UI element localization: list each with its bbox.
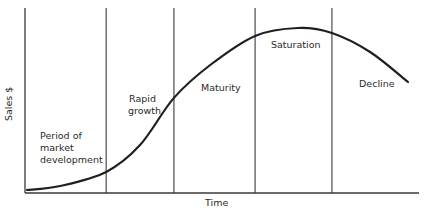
phase-label-maturity: Maturity bbox=[201, 82, 241, 93]
phase-label-line: market bbox=[40, 142, 74, 153]
phase-label-market-development: Period of market development bbox=[40, 130, 103, 165]
phase-label-line: Rapid bbox=[129, 93, 156, 104]
x-axis-label: Time bbox=[204, 197, 228, 208]
sales-curve bbox=[27, 28, 408, 190]
phase-label-decline: Decline bbox=[359, 78, 395, 89]
phase-label-rapid-growth: Rapid growth bbox=[128, 93, 161, 116]
phase-label-line: growth bbox=[128, 105, 161, 116]
y-axis-label: Sales $ bbox=[3, 87, 14, 121]
product-life-cycle-chart: Period of market development Rapid growt… bbox=[0, 0, 424, 208]
phase-label-saturation: Saturation bbox=[271, 39, 321, 50]
phase-label-line: Period of bbox=[40, 130, 82, 141]
phase-label-line: development bbox=[40, 154, 103, 165]
